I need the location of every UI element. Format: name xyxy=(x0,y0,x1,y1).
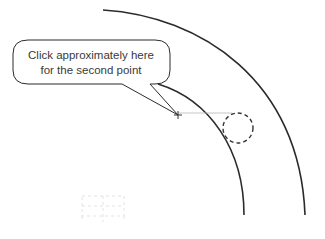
inner-arc xyxy=(158,84,244,215)
callout-line-1: Click approximately here xyxy=(28,49,154,61)
callout-bubble: Click approximately here for the second … xyxy=(13,40,178,115)
callout-line-2: for the second point xyxy=(40,64,142,76)
diagram-canvas: Click approximately here for the second … xyxy=(0,0,325,239)
dashed-snap-circle xyxy=(223,113,253,143)
faint-dashed-grid xyxy=(82,196,124,222)
